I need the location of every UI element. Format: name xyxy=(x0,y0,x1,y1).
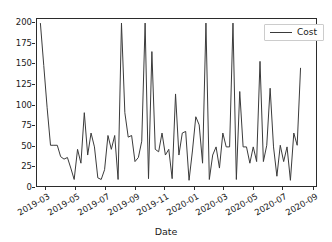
x-tick-mark xyxy=(313,187,314,190)
x-tick-mark xyxy=(105,187,106,190)
x-tick-mark xyxy=(194,187,195,190)
x-tick-mark xyxy=(164,187,165,190)
x-tick-mark xyxy=(223,187,224,190)
x-tick-mark xyxy=(282,187,283,190)
x-tick-mark xyxy=(75,187,76,190)
x-tick-mark xyxy=(45,187,46,190)
x-tick-mark xyxy=(253,187,254,190)
legend-line-swatch xyxy=(270,32,292,33)
legend: Cost xyxy=(264,24,324,41)
x-tick-mark xyxy=(135,187,136,190)
chart-figure: 0255075100125150175200 2019-032019-05201… xyxy=(0,0,332,242)
x-axis-label: Date xyxy=(0,226,332,237)
legend-label-cost: Cost xyxy=(297,28,317,37)
